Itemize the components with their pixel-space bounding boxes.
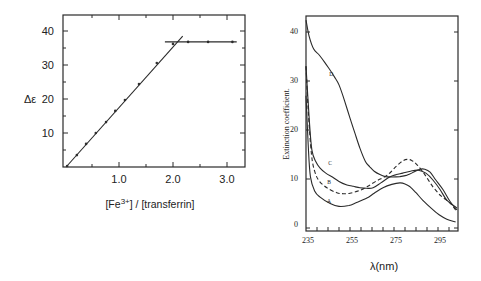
right-y-axis-label: Extinction coefficient.	[282, 88, 291, 159]
y-tick-label: 30	[290, 76, 298, 85]
left-plot-series	[66, 36, 237, 167]
curve-label-c: C	[328, 160, 332, 166]
x-tick-label: 235	[302, 236, 314, 245]
x-tick-label: 1.0	[111, 173, 126, 185]
y-tick-label: 30	[42, 59, 54, 71]
x-tick-label: 295	[434, 236, 446, 245]
curve-label-b: B	[327, 179, 331, 185]
y-tick-label: 20	[42, 93, 54, 105]
data-point	[172, 43, 175, 46]
left-axis-ticks	[63, 15, 245, 167]
curve-labels: ABCD	[327, 71, 333, 204]
right-plot-series	[306, 20, 457, 222]
right-tick-labels: 235255275295010203040	[290, 27, 446, 245]
left-tick-labels: 1.02.03.010203040	[42, 25, 235, 185]
y-tick-label: 0	[294, 220, 298, 229]
y-tick-label: 10	[290, 174, 298, 183]
left-y-axis-label: Δε	[24, 93, 36, 105]
x-tick-label: 255	[346, 236, 358, 245]
left-x-axis-label: [Fe3+] / [transferrin]	[105, 197, 194, 210]
y-tick-label: 10	[42, 127, 54, 139]
linear-fit-line	[66, 36, 183, 167]
titration-chart: 1.02.03.010203040 Δε [Fe3+] / [transferr…	[24, 15, 245, 210]
curve-label-d: D	[329, 71, 333, 77]
y-tick-label: 40	[42, 25, 54, 37]
left-plot-frame	[63, 15, 245, 167]
figure: 1.02.03.010203040 Δε [Fe3+] / [transferr…	[0, 0, 481, 281]
curve-label-a: A	[327, 198, 331, 204]
x-tick-label: 3.0	[219, 173, 234, 185]
curve-c	[306, 66, 457, 208]
y-tick-label: 40	[290, 27, 298, 36]
spectrum-chart: 235255275295010203040 ABCD Extinction co…	[282, 16, 458, 272]
curve-b	[306, 66, 457, 212]
right-x-axis-label: λ(nm)	[370, 260, 398, 272]
y-tick-label: 20	[290, 125, 298, 134]
x-tick-label: 2.0	[165, 173, 180, 185]
x-tick-label: 275	[390, 236, 402, 245]
